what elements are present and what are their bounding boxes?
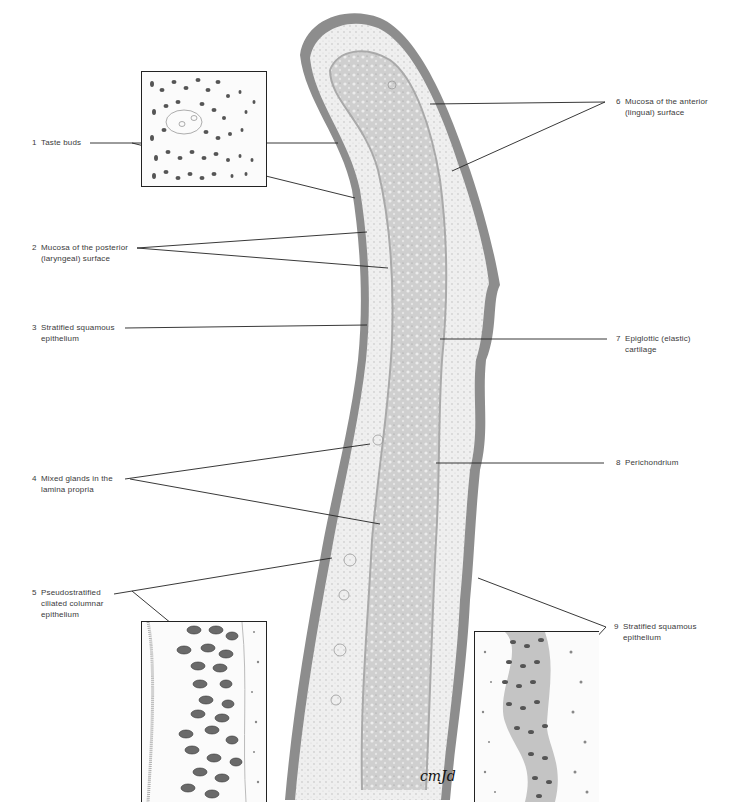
label-2-mucosa-posterior: 2Mucosa of the posterior (laryngeal) sur… [32, 242, 128, 264]
ciliated-columnar-cells-illustration [142, 622, 266, 802]
label-7-epiglottic-cartilage: 7Epiglottic (elastic) cartilage [616, 333, 691, 355]
stratified-squamous-cells-illustration [475, 632, 599, 802]
epiglottis-section-drawing [0, 0, 737, 810]
label-3-stratified-squamous: 3Stratified squamous epithelium [32, 322, 115, 344]
label-6-mucosa-anterior: 6Mucosa of the anterior (lingual) surfac… [616, 96, 708, 118]
label-4-mixed-glands: 4Mixed glands in the lamina propria [32, 473, 113, 495]
taste-bud-cells-illustration [142, 72, 266, 186]
taste-bud-inset [141, 71, 267, 187]
label-5-pseudostratified: 5Pseudostratified ciliated columnar epit… [32, 587, 104, 620]
label-1-taste-buds: 1Taste buds [32, 137, 81, 148]
artist-signature: cmJd [420, 768, 456, 784]
label-8-perichondrium: 8Perichondrium [616, 457, 679, 468]
stratified-squamous-inset [474, 631, 599, 802]
label-9-stratified-squamous: 9Stratified squamous epithelium [614, 621, 697, 643]
pseudostratified-inset [141, 621, 267, 802]
